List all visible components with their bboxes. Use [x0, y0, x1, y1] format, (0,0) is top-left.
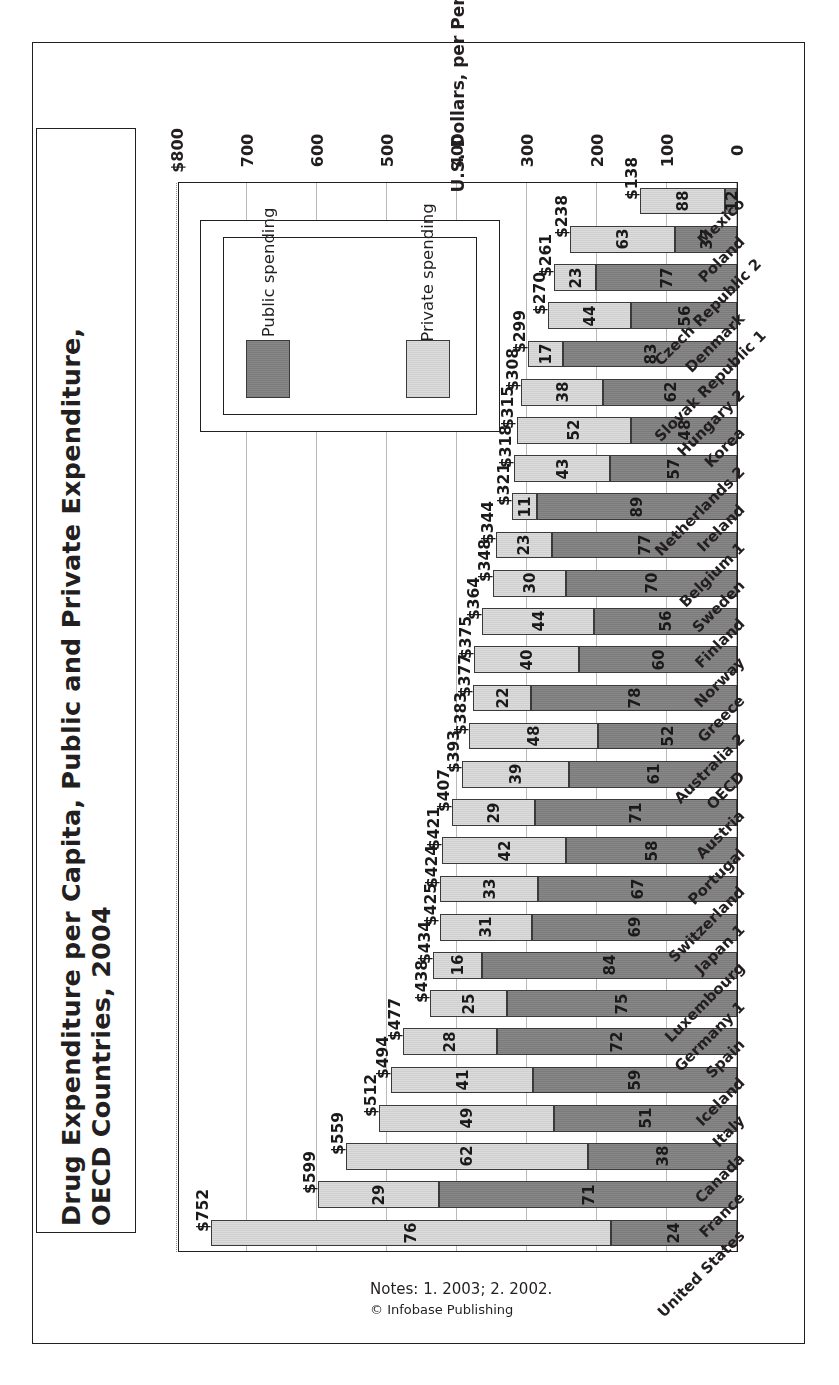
axis-tick-label: $800 — [169, 127, 188, 175]
y-axis-title: U.S. Dollars, per Person — [448, 0, 468, 218]
legend-item[interactable]: Private spending — [359, 263, 497, 398]
axis-tick-label: 600 — [309, 127, 328, 175]
page-title-line-2: OECD Countries, 2004 — [86, 327, 116, 1225]
page-title-line-1: Drug Expenditure per Capita, Public and … — [56, 327, 86, 1225]
legend-label: Public spending — [258, 208, 277, 338]
legend-swatch-public — [246, 340, 290, 398]
legend-swatch-private — [406, 340, 450, 398]
chart-rotator: Notes: 1. 2003; 2. 2002. © Infobase Publ… — [140, 48, 800, 1338]
axis-tick-label: 300 — [519, 127, 538, 175]
chart-area: Notes: 1. 2003; 2. 2002. © Infobase Publ… — [140, 48, 800, 1338]
legend-items: Public spendingPrivate spending — [223, 237, 477, 415]
legend-item[interactable]: Public spending — [203, 263, 333, 398]
axis-tick-label: 0 — [729, 127, 748, 175]
figure-page: Drug Expenditure per Capita, Public and … — [0, 0, 839, 1385]
legend-label: Private spending — [418, 203, 437, 341]
chart-legend: Public spendingPrivate spending — [200, 220, 500, 432]
axis-tick-label: 500 — [379, 127, 398, 175]
axis-tick-label: 700 — [239, 127, 258, 175]
axis-tick-label: 200 — [589, 127, 608, 175]
title-rotator: Drug Expenditure per Capita, Public and … — [40, 136, 132, 1226]
axis-tick-label: 100 — [659, 127, 678, 175]
page-title: Drug Expenditure per Capita, Public and … — [56, 327, 116, 1225]
title-box: Drug Expenditure per Capita, Public and … — [36, 128, 136, 1233]
